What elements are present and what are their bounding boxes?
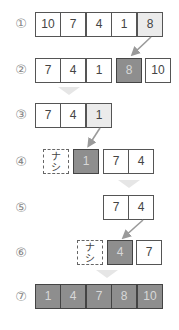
move-arrows (0, 0, 179, 330)
arrow-icon (124, 220, 143, 237)
arrow-icon (133, 37, 151, 54)
arrow-icon (89, 128, 100, 145)
